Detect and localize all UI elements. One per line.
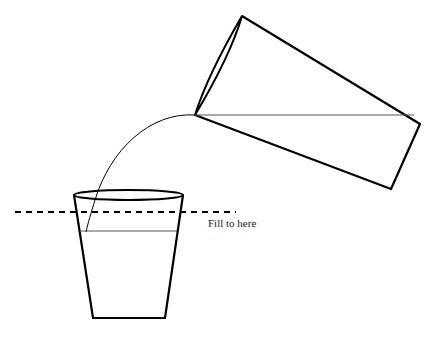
tilted-pouring-cup bbox=[195, 16, 420, 189]
glass-body bbox=[74, 195, 183, 318]
receiving-glass bbox=[74, 190, 183, 318]
pour-stream bbox=[86, 115, 195, 232]
pouring-cup-body bbox=[195, 16, 420, 189]
pouring-diagram bbox=[0, 0, 437, 339]
pouring-cup-mouth bbox=[195, 16, 242, 115]
fill-line-label: Fill to here bbox=[208, 217, 256, 229]
glass-rim bbox=[74, 190, 183, 200]
